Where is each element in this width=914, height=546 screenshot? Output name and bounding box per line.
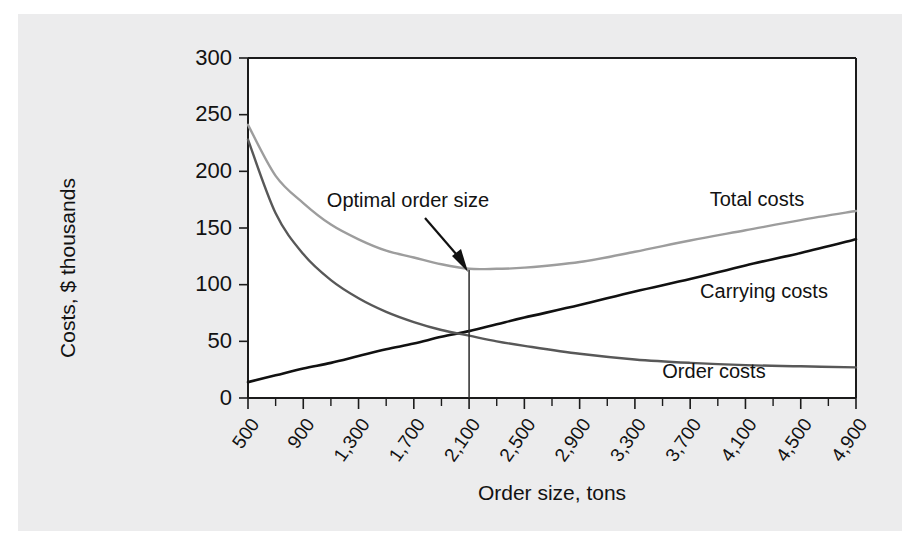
x-tick-label: 2,500 <box>495 414 539 465</box>
cost-curve-chart: 050100150200250300 5009001,3001,7002,100… <box>0 0 914 546</box>
y-tick-label: 300 <box>195 45 232 70</box>
optimal-order-size-annotation: Optimal order size <box>327 189 489 211</box>
x-tick-label: 1,700 <box>385 414 429 465</box>
x-tick-label: 4,900 <box>827 414 871 465</box>
y-tick-label: 0 <box>220 385 232 410</box>
x-tick-label: 500 <box>228 414 263 452</box>
x-tick-label: 3,700 <box>661 414 705 465</box>
x-tick-label: 4,500 <box>772 414 816 465</box>
y-axis-ticks <box>239 58 248 398</box>
x-axis-tick-labels: 5009001,3001,7002,1002,5002,9003,3003,70… <box>228 414 871 465</box>
series-label-carrying-costs: Carrying costs <box>700 280 828 302</box>
y-tick-label: 150 <box>195 215 232 240</box>
plot-area-background <box>248 58 856 398</box>
x-tick-label: 900 <box>283 414 318 452</box>
x-axis-ticks <box>248 398 856 409</box>
series-label-order-costs: Order costs <box>662 360 765 382</box>
chart-figure: 050100150200250300 5009001,3001,7002,100… <box>0 0 914 546</box>
y-tick-label: 100 <box>195 271 232 296</box>
x-axis-title: Order size, tons <box>478 481 626 504</box>
x-tick-label: 2,900 <box>550 414 594 465</box>
series-label-total-costs: Total costs <box>710 188 804 210</box>
y-tick-label: 250 <box>195 101 232 126</box>
x-tick-label: 3,300 <box>606 414 650 465</box>
y-axis-tick-labels: 050100150200250300 <box>195 45 232 410</box>
x-tick-label: 2,100 <box>440 414 484 465</box>
x-tick-label: 4,100 <box>716 414 760 465</box>
y-tick-label: 200 <box>195 158 232 183</box>
y-axis-title: Costs, $ thousands <box>56 178 79 358</box>
y-tick-label: 50 <box>208 328 232 353</box>
x-tick-label: 1,300 <box>329 414 373 465</box>
